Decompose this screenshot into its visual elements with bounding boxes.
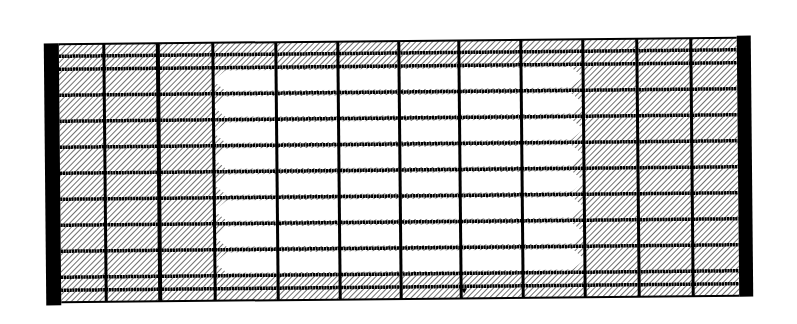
left-side-bar [44,43,62,305]
right-side-bar [737,36,754,297]
grid-root [44,36,753,306]
hatched-grid-diagram [0,0,797,324]
column-line [158,43,160,301]
